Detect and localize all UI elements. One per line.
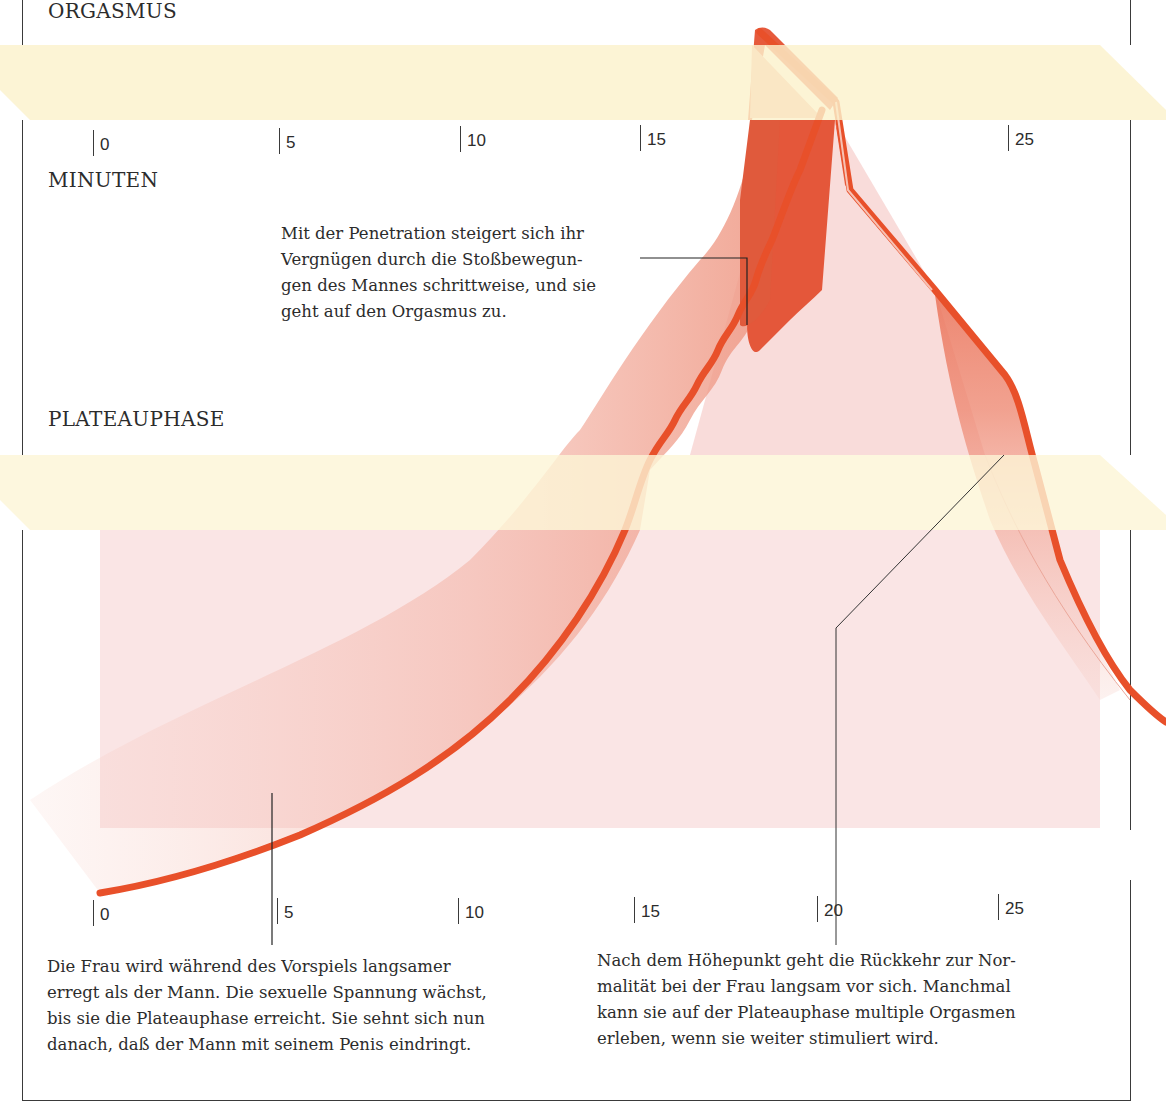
caption-line: bis sie die Plateauphase erreicht. Sie s… xyxy=(47,1006,587,1032)
penetration-callout: Mit der Penetration steigert sich ihr Ve… xyxy=(281,221,681,325)
top-tick-10: 10 xyxy=(460,126,486,152)
tick-label: 25 xyxy=(1005,899,1024,918)
tick-label: 10 xyxy=(465,903,484,922)
orgasm-level-band xyxy=(0,45,1166,120)
plateau-level-band xyxy=(0,455,1166,530)
tick-label: 20 xyxy=(824,901,843,920)
tick-label: 5 xyxy=(284,903,293,922)
foreplay-caption: Die Frau wird während des Vorspiels lang… xyxy=(47,954,587,1058)
top-tick-15: 15 xyxy=(640,125,666,151)
top-tick-5: 5 xyxy=(279,128,295,154)
bottom-tick-5: 5 xyxy=(277,898,293,924)
caption-line: erleben, wenn sie weiter stimuliert wird… xyxy=(597,1026,1097,1052)
callout-line: gen des Mannes schrittweise, und sie xyxy=(281,273,681,299)
top-tick-25: 25 xyxy=(1008,125,1034,151)
bottom-tick-15: 15 xyxy=(634,897,660,923)
tick-label: 5 xyxy=(286,133,295,152)
caption-line: Nach dem Höhepunkt geht die Rückkehr zur… xyxy=(597,948,1097,974)
tick-label: 0 xyxy=(100,905,109,924)
caption-line: Die Frau wird während des Vorspiels lang… xyxy=(47,954,587,980)
bottom-tick-0: 0 xyxy=(93,900,109,926)
tick-label: 15 xyxy=(647,130,666,149)
arousal-curve-graphic xyxy=(0,0,1166,1112)
tick-label: 10 xyxy=(467,131,486,150)
caption-line: malität bei der Frau langsam vor sich. M… xyxy=(597,974,1097,1000)
tick-label: 0 xyxy=(100,135,109,154)
bottom-tick-25: 25 xyxy=(998,894,1024,920)
bottom-tick-20: 20 xyxy=(817,896,843,922)
callout-line: Vergnügen durch die Stoßbewegun- xyxy=(281,247,681,273)
caption-line: danach, daß der Mann mit seinem Penis ei… xyxy=(47,1032,587,1058)
top-tick-0: 0 xyxy=(93,130,109,156)
tick-label: 15 xyxy=(641,902,660,921)
callout-line: geht auf den Orgasmus zu. xyxy=(281,299,681,325)
plateau-level-label: PLATEAUPHASE xyxy=(48,407,225,431)
caption-line: kann sie auf der Plateauphase multiple O… xyxy=(597,1000,1097,1026)
bottom-tick-10: 10 xyxy=(458,898,484,924)
resolution-caption: Nach dem Höhepunkt geht die Rückkehr zur… xyxy=(597,948,1097,1052)
orgasm-level-label: ORGASMUS xyxy=(48,0,177,23)
callout-line: Mit der Penetration steigert sich ihr xyxy=(281,221,681,247)
caption-line: erregt als der Mann. Die sexuelle Spannu… xyxy=(47,980,587,1006)
tick-label: 25 xyxy=(1015,130,1034,149)
minutes-axis-label: MINUTEN xyxy=(48,168,158,192)
